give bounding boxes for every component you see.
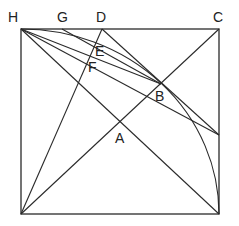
label-b: B	[155, 88, 164, 104]
label-f: F	[88, 59, 97, 75]
line-h-to-b	[21, 29, 161, 84]
geometry-diagram: H G D C E F B A	[0, 0, 239, 226]
label-a: A	[115, 130, 125, 146]
label-g: G	[57, 9, 68, 25]
label-c: C	[213, 9, 223, 25]
label-d: D	[96, 9, 106, 25]
label-h: H	[8, 9, 18, 25]
line-bottom-left-to-d	[21, 29, 102, 214]
label-e: E	[95, 43, 104, 59]
